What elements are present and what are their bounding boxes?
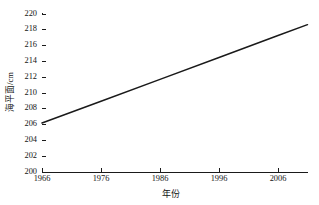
y-tick-220 [42, 14, 46, 15]
x-tick-label-1986: 1986 [140, 174, 180, 183]
y-tick-212 [42, 77, 46, 78]
y-tick-202 [42, 156, 46, 157]
x-tick-2006 [278, 168, 279, 172]
x-tick-1986 [160, 168, 161, 172]
y-tick-208 [42, 108, 46, 109]
x-axis-title: 年份 [0, 187, 319, 200]
y-tick-label-220: 220 [0, 10, 37, 18]
plot-area [42, 14, 307, 172]
y-tick-label-204: 204 [0, 136, 37, 144]
y-tick-216 [42, 45, 46, 46]
y-tick-210 [42, 93, 46, 94]
y-tick-200 [42, 172, 46, 173]
y-axis-title: 海平面/cm [3, 54, 15, 130]
y-tick-204 [42, 140, 46, 141]
x-tick-label-1996: 1996 [199, 174, 239, 183]
x-tick-1976 [101, 168, 102, 172]
y-tick-label-216: 216 [0, 41, 37, 49]
x-tick-1996 [219, 168, 220, 172]
y-tick-218 [42, 29, 46, 30]
x-tick-label-1976: 1976 [81, 174, 121, 183]
y-tick-label-218: 218 [0, 25, 37, 33]
y-tick-214 [42, 61, 46, 62]
x-tick-label-2006: 2006 [258, 174, 298, 183]
x-tick-1966 [42, 168, 43, 172]
y-tick-206 [42, 124, 46, 125]
y-tick-label-202: 202 [0, 152, 37, 160]
x-tick-label-1966: 1966 [22, 174, 62, 183]
chart-figure: 200202204206208210212214216218220 196619… [0, 0, 319, 205]
